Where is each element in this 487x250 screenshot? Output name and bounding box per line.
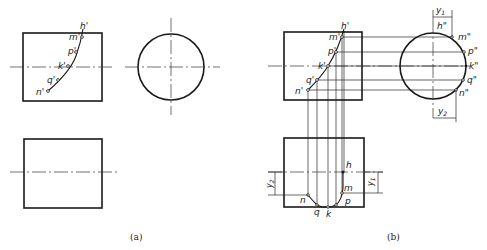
projection-diagram: h' m' p' k' q' n' (a) [0,0,487,250]
caption-a: (a) [130,232,142,242]
point-q-dbl [462,79,465,82]
label-m: m [344,183,353,193]
label-p-prime: p' [327,46,336,56]
side-view-a [125,18,220,115]
label-n-dbl: n" [459,88,469,98]
intersection-curve-top [308,172,343,207]
top-view-a [10,139,120,208]
point-p2 [335,204,338,207]
label-h: h [346,160,352,170]
label-q-prime: q' [47,75,55,85]
point-k [327,65,330,68]
label-k-prime: k' [318,61,326,71]
cylinder-top-outline [284,138,364,207]
label-k-dbl: k" [469,61,478,71]
label-k-prime: k' [58,61,66,71]
label-q-dbl: q" [467,75,477,85]
point-k [327,206,330,209]
label-h-prime: h' [341,21,349,31]
label-n-prime: n' [36,87,44,97]
svg-text:y2: y2 [265,179,275,189]
dimension-y2: y2 [433,90,456,122]
label-h-prime: h' [80,21,88,31]
label-p-dbl: p" [467,46,478,56]
caption-b: (b) [387,232,400,242]
svg-text:y1: y1 [435,5,445,16]
point-q [316,204,319,207]
point-m [81,36,84,39]
point-q [316,79,319,82]
projection-lines-vertical [308,31,344,207]
point-n [47,90,50,93]
panel-b: h' m' p' k' q' n' h" m" p" k" q" n" [265,5,478,242]
projection-lines-horizontal [308,37,466,90]
point-q [57,79,60,82]
side-view-b: h" m" p" k" q" n" y1 y2 [400,5,478,122]
label-m-prime: m' [69,32,80,42]
top-view-b: h m p k q n y2 y1 [265,138,383,219]
point-n [307,89,310,92]
point-p [341,192,344,195]
dimension-y2-top: y2 [265,172,308,195]
front-view-a: h' m' p' k' q' n' [10,21,115,101]
cylinder-top-outline [24,139,102,208]
point-m [341,36,344,39]
front-view-b: h' m' p' k' q' n' [268,21,470,100]
label-m-dbl: m" [458,32,471,42]
label-n: n [300,195,306,205]
label-p: p [344,196,351,206]
label-q-prime: q' [306,75,314,85]
point-p-dbl [463,51,466,54]
svg-text:y1: y1 [366,177,376,187]
panel-a: h' m' p' k' q' n' (a) [10,18,220,242]
label-n-prime: n' [295,86,303,96]
label-m-prime: m' [329,32,340,42]
point-k-dbl [465,65,468,68]
svg-text:y2: y2 [437,106,447,117]
point-k [67,65,70,68]
point-h [342,171,345,174]
label-h-dbl: h" [437,21,447,31]
label-p-prime: p' [67,46,76,56]
label-k: k [326,209,332,219]
label-q: q [314,207,320,217]
